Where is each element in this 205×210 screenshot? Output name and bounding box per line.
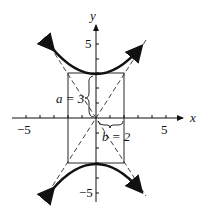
- a-annotation: a = 3: [56, 91, 85, 106]
- x-axis-label: x: [189, 110, 196, 125]
- y-axis: [96, 25, 99, 202]
- y-tick-label-5: 5: [85, 36, 92, 51]
- x-tick-label-5: 5: [161, 122, 168, 137]
- hyperbola-diagram: y x 5 −5 −5 5 a = 3 b = 2: [0, 0, 205, 210]
- y-axis-label: y: [88, 8, 96, 23]
- b-annotation: b = 2: [102, 129, 131, 144]
- brace-a-icon: [85, 76, 94, 117]
- y-tick-label-neg5: −5: [79, 185, 93, 200]
- x-tick-label-neg5: −5: [17, 122, 31, 137]
- brace-b-icon: [98, 121, 123, 128]
